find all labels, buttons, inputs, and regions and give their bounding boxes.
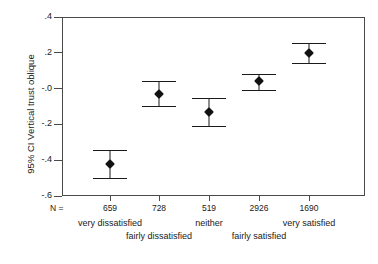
n-equals-label: N =: [50, 204, 63, 213]
error-bar-lower-cap: [292, 63, 326, 64]
data-point-marker: [204, 107, 214, 117]
error-bar: [239, 72, 279, 92]
y-axis-tick-label: -.2: [36, 119, 52, 128]
error-bar-upper-cap: [142, 81, 176, 82]
error-bar-lower-cap: [242, 90, 276, 91]
y-axis-tick: [54, 17, 62, 18]
data-point-marker: [304, 48, 314, 58]
error-bar-upper-cap: [292, 43, 326, 44]
error-bar-lower-cap: [192, 126, 226, 127]
y-axis-tick-label: -.6: [36, 191, 52, 200]
data-point-marker: [154, 89, 164, 99]
error-bar-lower-cap: [142, 106, 176, 107]
error-bar-upper-cap: [93, 150, 127, 151]
x-axis-tick: [259, 196, 260, 201]
x-axis-category-label: very satisfied: [283, 219, 336, 228]
y-axis-tick-label: .2: [36, 48, 52, 57]
chart-container: 95% CI Vertical trust oblique .4.2-.0-.2…: [0, 0, 378, 264]
y-axis-title: 95% CI Vertical trust oblique: [22, 16, 40, 212]
y-axis-tick: [54, 196, 62, 197]
error-bar: [90, 148, 130, 180]
data-point-marker: [254, 76, 264, 86]
y-axis-tick: [54, 52, 62, 53]
x-axis-category-label: fairly satisfied: [232, 232, 287, 241]
x-axis-tick: [110, 196, 111, 201]
x-axis-tick: [209, 196, 210, 201]
y-axis-tick-label: -.4: [36, 155, 52, 164]
y-axis-tick-label: .4: [36, 12, 52, 21]
error-bar: [289, 41, 329, 65]
y-axis-tick: [54, 88, 62, 89]
error-bar-upper-cap: [192, 98, 226, 99]
n-value: 2926: [250, 204, 269, 213]
n-value: 659: [103, 204, 117, 213]
n-value: 519: [202, 204, 216, 213]
x-axis-tick: [309, 196, 310, 201]
error-bar-lower-cap: [93, 178, 127, 179]
y-axis-title-text: 95% CI Vertical trust oblique: [26, 54, 36, 173]
error-bar: [189, 96, 229, 128]
x-axis-category-label: very dissatisfied: [78, 219, 142, 228]
y-axis-tick-label: -.0: [36, 84, 52, 93]
error-bar: [139, 79, 179, 109]
data-point-marker: [105, 159, 115, 169]
x-axis-category-label: neither: [195, 219, 223, 228]
x-axis-category-label: fairly dissatisfied: [126, 232, 192, 241]
x-axis-tick: [159, 196, 160, 201]
y-axis-tick: [54, 124, 62, 125]
n-value: 1690: [300, 204, 319, 213]
y-axis-tick: [54, 160, 62, 161]
n-value: 728: [152, 204, 166, 213]
